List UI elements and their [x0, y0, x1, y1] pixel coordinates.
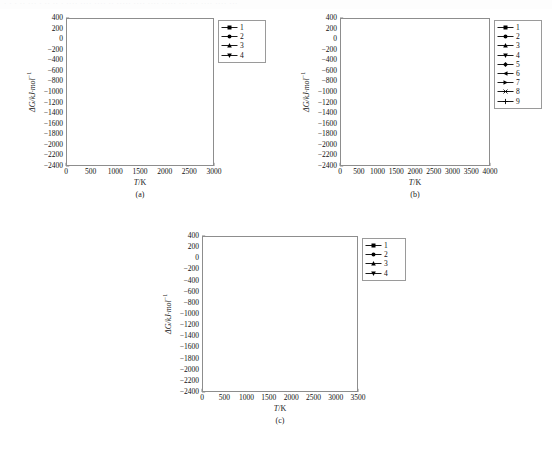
- legend-item-1[interactable]: 1: [221, 23, 262, 32]
- y-tick-label: −1400: [307, 109, 337, 117]
- legend-marker-square-icon: [497, 23, 514, 32]
- legend-item-7[interactable]: 7: [497, 78, 538, 87]
- x-tick-label: 3500: [342, 394, 374, 402]
- y-tick-label: −2000: [33, 141, 63, 149]
- legend-label: 1: [238, 23, 244, 32]
- legend-marker-triangle-left-icon: [497, 69, 514, 78]
- y-tick-label: −1600: [169, 343, 199, 351]
- marker-plus: [503, 98, 508, 103]
- legend-label: 4: [238, 51, 244, 60]
- page-top-artifact: · · · ·· ··· · ·· ·· · ···· ···· ···· ··…: [0, 0, 552, 9]
- y-tick-label: 0: [307, 35, 337, 43]
- y-tick-label: 200: [307, 25, 337, 33]
- legend-item-2[interactable]: 2: [497, 32, 538, 41]
- legend-item-4[interactable]: 4: [497, 51, 538, 60]
- y-tick-label: −600: [307, 67, 337, 75]
- y-tick-label: −200: [169, 265, 199, 273]
- y-tick-label: −600: [169, 288, 199, 296]
- y-tick-label: −1200: [169, 321, 199, 329]
- y-tick-label: −600: [33, 67, 63, 75]
- legend-item-1[interactable]: 1: [497, 23, 538, 32]
- legend-item-3[interactable]: 3: [497, 41, 538, 50]
- marker-circle: [228, 35, 232, 39]
- legend-marker-triangle-up-icon: [221, 41, 238, 50]
- y-tick-label: −200: [307, 46, 337, 54]
- y-tick-label: −400: [33, 56, 63, 64]
- legend-marker-circle-icon: [497, 32, 514, 41]
- y-tick-label: −1400: [33, 109, 63, 117]
- legend-marker-triangle-down-icon: [497, 51, 514, 60]
- y-tick-label: −800: [33, 77, 63, 85]
- marker-star: [503, 90, 509, 94]
- legend-item-3[interactable]: 3: [365, 259, 402, 268]
- y-tick-label: −1800: [307, 130, 337, 138]
- y-tick-label: −1000: [33, 88, 63, 96]
- panel-caption-a: (a): [120, 190, 160, 199]
- legend-label: 9: [514, 97, 520, 106]
- legend-label: 2: [238, 32, 244, 41]
- legend-c: 1234: [362, 238, 406, 281]
- x-axis-label: T/K: [260, 404, 300, 413]
- legend-label: 7: [514, 78, 520, 87]
- legend-label: 4: [514, 51, 520, 60]
- legend-marker-triangle-up-icon: [497, 41, 514, 50]
- legend-marker-triangle-up-icon: [365, 259, 382, 268]
- figure-panel-b: ΔG/kJ·mol−14002000−200−400−600−800−1000−…: [282, 12, 548, 212]
- legend-marker-square-icon: [221, 23, 238, 32]
- y-tick-label: −1400: [169, 332, 199, 340]
- y-tick-label: −1200: [307, 99, 337, 107]
- y-tick-label: −200: [33, 46, 63, 54]
- ghost-header-text: · · · ·· ··· · ·· ·· · ···· ···· ···· ··…: [0, 0, 552, 9]
- legend-marker-triangle-right-icon: [497, 78, 514, 87]
- legend-marker-triangle-down-icon: [365, 269, 382, 278]
- legend-label: 4: [382, 269, 388, 278]
- y-tick-label: 200: [169, 243, 199, 251]
- legend-item-5[interactable]: 5: [497, 60, 538, 69]
- marker-square: [372, 244, 376, 248]
- y-tick-label: 400: [169, 232, 199, 240]
- legend-item-2[interactable]: 2: [365, 250, 402, 259]
- y-tick-label: −2200: [33, 151, 63, 159]
- legend-label: 3: [382, 259, 388, 268]
- panel-caption-c: (c): [260, 416, 300, 425]
- legend-item-8[interactable]: 8: [497, 87, 538, 96]
- y-tick-label: −1200: [33, 99, 63, 107]
- legend-marker-star-icon: [497, 87, 514, 96]
- legend-item-2[interactable]: 2: [221, 32, 262, 41]
- legend-marker-circle-icon: [221, 32, 238, 41]
- legend-b: 123456789: [494, 20, 542, 109]
- legend-label: 1: [382, 241, 388, 250]
- marker-circle: [504, 35, 508, 39]
- legend-label: 2: [514, 32, 520, 41]
- y-tick-label: −800: [307, 77, 337, 85]
- legend-item-3[interactable]: 3: [221, 41, 262, 50]
- figure-panel-c: ΔG/kJ·mol−14002000−200−400−600−800−1000−…: [140, 228, 408, 450]
- legend-label: 5: [514, 60, 520, 69]
- y-tick-label: 400: [33, 14, 63, 22]
- y-tick-label: −800: [169, 299, 199, 307]
- plot-frame: [66, 18, 214, 166]
- marker-square: [504, 26, 508, 30]
- marker-circle: [372, 253, 376, 257]
- legend-label: 1: [514, 23, 520, 32]
- y-tick-label: −1800: [33, 130, 63, 138]
- legend-label: 6: [514, 69, 520, 78]
- legend-item-4[interactable]: 4: [365, 269, 402, 278]
- y-tick-label: −2200: [169, 377, 199, 385]
- y-tick-label: 0: [169, 254, 199, 262]
- plot-frame: [340, 18, 490, 166]
- legend-item-9[interactable]: 9: [497, 97, 538, 106]
- y-tick-label: −2200: [307, 151, 337, 159]
- legend-item-1[interactable]: 1: [365, 241, 402, 250]
- y-tick-label: −400: [169, 277, 199, 285]
- legend-marker-square-icon: [365, 241, 382, 250]
- figure-panel-a: ΔG/kJ·mol−14002000−200−400−600−800−1000−…: [8, 12, 272, 212]
- y-tick-label: −2000: [307, 141, 337, 149]
- y-tick-label: 0: [33, 35, 63, 43]
- y-tick-label: −1000: [169, 310, 199, 318]
- legend-label: 3: [514, 41, 520, 50]
- legend-item-4[interactable]: 4: [221, 51, 262, 60]
- legend-label: 3: [238, 41, 244, 50]
- legend-item-6[interactable]: 6: [497, 69, 538, 78]
- y-tick-label: −2000: [169, 366, 199, 374]
